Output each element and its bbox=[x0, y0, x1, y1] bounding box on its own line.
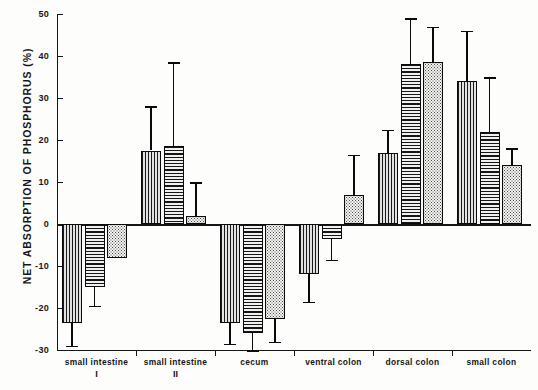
y-axis-tick-label: 30 bbox=[21, 93, 49, 103]
x-axis-group-label: cecum bbox=[215, 356, 294, 368]
error-bar-cap bbox=[461, 31, 473, 33]
error-bar-cap bbox=[506, 148, 518, 150]
error-bar bbox=[466, 31, 468, 81]
bar bbox=[107, 224, 127, 258]
bar bbox=[141, 151, 161, 225]
group-label-main: dorsal colon bbox=[386, 357, 440, 367]
x-axis-group-label: small intestineI bbox=[57, 356, 136, 380]
bar bbox=[344, 195, 364, 224]
error-bar bbox=[387, 130, 389, 153]
y-axis-tick-mark bbox=[58, 98, 63, 99]
error-bar-cap bbox=[348, 155, 360, 157]
group-label-main: ventral colon bbox=[305, 357, 362, 367]
y-axis-tick-label: -20 bbox=[21, 303, 49, 313]
y-axis-tick-label: 10 bbox=[21, 177, 49, 187]
bar bbox=[164, 146, 184, 224]
error-bar bbox=[150, 106, 152, 150]
error-bar-cap bbox=[89, 306, 101, 308]
y-axis-tick-mark bbox=[58, 350, 63, 351]
error-bar bbox=[432, 27, 434, 63]
y-axis-tick-label: 40 bbox=[21, 51, 49, 61]
bar bbox=[401, 64, 421, 224]
bar bbox=[480, 132, 500, 224]
error-bar-cap bbox=[247, 350, 259, 352]
group-label-sub: I bbox=[57, 368, 136, 380]
y-axis-tick-label: 50 bbox=[21, 9, 49, 19]
group-label-main: small colon bbox=[467, 357, 517, 367]
error-bar bbox=[511, 148, 513, 165]
error-bar bbox=[229, 323, 231, 344]
error-bar-cap bbox=[405, 18, 417, 20]
y-axis-tick-label: 0 bbox=[21, 219, 49, 229]
bar bbox=[85, 224, 105, 287]
error-bar bbox=[71, 323, 73, 346]
error-bar-cap bbox=[66, 346, 78, 348]
error-bar-cap bbox=[484, 77, 496, 79]
group-label-main: cecum bbox=[240, 357, 268, 367]
bar bbox=[457, 81, 477, 224]
bar bbox=[186, 216, 206, 224]
error-bar bbox=[274, 319, 276, 342]
bar bbox=[265, 224, 285, 319]
error-bar bbox=[331, 239, 333, 260]
bar bbox=[322, 224, 342, 239]
bar bbox=[502, 165, 522, 224]
error-bar bbox=[252, 333, 254, 350]
x-axis-group-label: small colon bbox=[452, 356, 531, 368]
y-axis-tick-label: -10 bbox=[21, 261, 49, 271]
error-bar-cap bbox=[269, 342, 281, 344]
y-axis-title: NET ABSORPTION OF PHOSPHORUS (%) bbox=[21, 41, 33, 291]
y-axis-tick-mark bbox=[58, 182, 63, 183]
y-axis-tick-label: 20 bbox=[21, 135, 49, 145]
bar bbox=[220, 224, 240, 323]
bar bbox=[423, 62, 443, 224]
y-axis-tick-label: -30 bbox=[21, 345, 49, 355]
y-axis-tick-mark bbox=[58, 56, 63, 57]
bar bbox=[243, 224, 263, 333]
x-axis-group-label: small intestineII bbox=[136, 356, 215, 380]
group-label-main: small intestine bbox=[65, 357, 128, 367]
group-label-main: small intestine bbox=[144, 357, 207, 367]
error-bar-cap bbox=[145, 106, 157, 108]
bar bbox=[62, 224, 82, 323]
error-bar-cap bbox=[326, 260, 338, 262]
y-axis-tick-mark bbox=[58, 14, 63, 15]
error-bar bbox=[489, 77, 491, 132]
error-bar-cap bbox=[224, 344, 236, 346]
error-bar-cap bbox=[427, 27, 439, 29]
error-bar-cap bbox=[382, 130, 394, 132]
x-axis-group-label: ventral colon bbox=[294, 356, 373, 368]
error-bar-cap bbox=[190, 182, 202, 184]
error-bar bbox=[410, 18, 412, 64]
bar bbox=[299, 224, 319, 274]
error-bar bbox=[353, 155, 355, 195]
y-axis-tick-mark bbox=[58, 140, 63, 141]
error-bar bbox=[308, 274, 310, 301]
error-bar bbox=[94, 287, 96, 306]
error-bar-cap bbox=[303, 302, 315, 304]
error-bar bbox=[173, 62, 175, 146]
x-axis-group-label: dorsal colon bbox=[373, 356, 452, 368]
bar bbox=[378, 153, 398, 224]
group-label-sub: II bbox=[136, 368, 215, 380]
zero-line bbox=[57, 224, 531, 226]
error-bar bbox=[195, 182, 197, 216]
error-bar-cap bbox=[168, 62, 180, 64]
chart-figure: NET ABSORPTION OF PHOSPHORUS (%) 5040302… bbox=[0, 0, 538, 390]
